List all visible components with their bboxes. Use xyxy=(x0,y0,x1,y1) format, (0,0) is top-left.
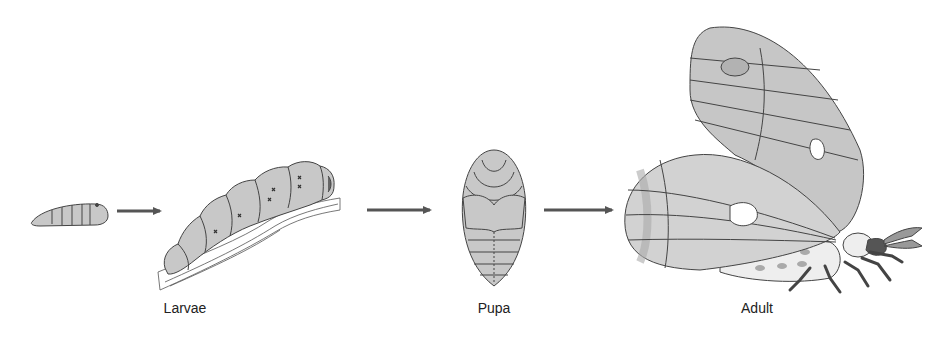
label-pupa: Pupa xyxy=(449,300,539,316)
life-cycle-diagram: Larvae Pupa Adult xyxy=(0,0,948,353)
label-adult: Adult xyxy=(712,300,802,316)
adult-moth-icon xyxy=(625,27,922,292)
label-larvae: Larvae xyxy=(140,300,230,316)
large-larva-icon xyxy=(164,162,334,274)
small-larva-icon xyxy=(31,204,108,227)
pupa-icon xyxy=(462,150,525,286)
